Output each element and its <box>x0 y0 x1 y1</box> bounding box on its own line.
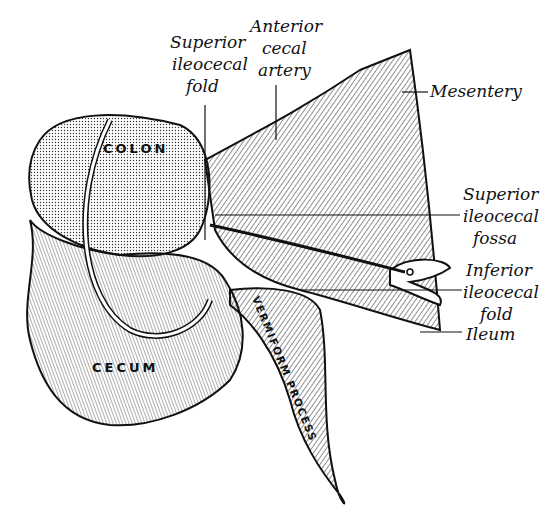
svg-text:cecal: cecal <box>262 38 307 58</box>
vermiform-process-shape <box>230 288 344 503</box>
label-anterior-cecal-artery: Anterior cecal artery <box>248 16 323 80</box>
label-superior-ileocecal-fossa: Superior ileocecal fossa <box>463 184 539 248</box>
svg-text:Ileum: Ileum <box>465 324 515 344</box>
svg-text:Superior: Superior <box>170 32 246 52</box>
label-colon: COLON <box>103 141 168 156</box>
label-ileum: Ileum <box>465 324 515 344</box>
svg-text:Mesentery: Mesentery <box>429 81 522 101</box>
svg-text:artery: artery <box>258 60 311 80</box>
svg-text:Superior: Superior <box>463 184 539 204</box>
svg-text:ileocecal: ileocecal <box>463 282 539 302</box>
svg-text:ileocecal: ileocecal <box>172 54 248 74</box>
svg-text:fossa: fossa <box>471 228 517 248</box>
label-inferior-ileocecal-fold: Inferior ileocecal fold <box>463 260 539 324</box>
anatomical-illustration: Superior ileocecal fold Anterior cecal a… <box>0 0 554 522</box>
label-superior-ileocecal-fold: Superior ileocecal fold <box>170 32 248 96</box>
svg-text:fold: fold <box>184 76 219 96</box>
label-cecum: CECUM <box>92 360 158 375</box>
svg-text:Anterior: Anterior <box>248 16 323 36</box>
colon-shape <box>29 115 209 256</box>
svg-text:Inferior: Inferior <box>465 260 533 280</box>
svg-text:ileocecal: ileocecal <box>463 206 539 226</box>
svg-text:fold: fold <box>478 304 513 324</box>
label-mesentery: Mesentery <box>429 81 522 101</box>
